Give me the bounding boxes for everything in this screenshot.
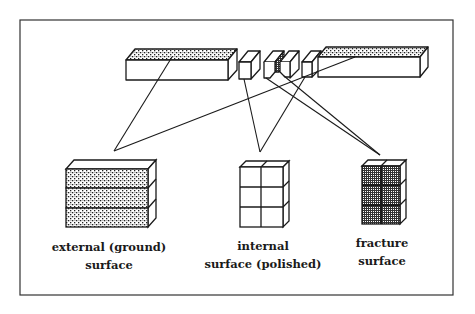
fracture-surface-block xyxy=(362,160,406,224)
right-bar xyxy=(318,47,428,77)
fracture-label-line2: surface xyxy=(358,254,406,268)
external-label-line1: external (ground) xyxy=(52,240,166,254)
cube-1 xyxy=(239,51,260,79)
left-bar xyxy=(126,49,237,80)
external-surface-block xyxy=(66,160,156,227)
surface-diagram: external (ground) surface internal surfa… xyxy=(0,0,475,314)
internal-label-line2: surface (polished) xyxy=(204,257,321,271)
internal-label-line1: internal xyxy=(237,239,289,253)
internal-surface-block xyxy=(240,161,289,227)
fracture-label-line1: fracture xyxy=(356,236,409,250)
external-label-line2: surface xyxy=(85,258,133,272)
